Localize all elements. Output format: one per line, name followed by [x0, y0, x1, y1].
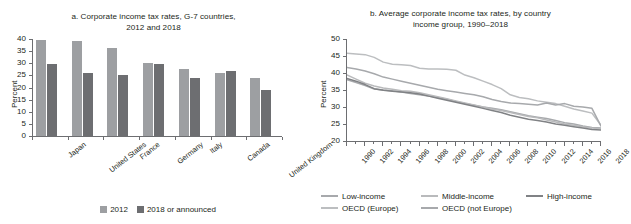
legend-row: Low-incomeMiddle-incomeHigh-income	[321, 190, 614, 202]
bar-group	[104, 39, 140, 136]
bar-2012	[143, 63, 153, 136]
panel-a-bar-chart: a. Corporate income tax rates, G-7 count…	[0, 0, 307, 224]
legend-line-icon	[526, 195, 543, 197]
panel-b-y-tick-label: 40	[324, 69, 340, 77]
panel-a-y-tick-label: 25	[10, 71, 26, 79]
legend-item: OECD (not Europe)	[421, 204, 526, 213]
panel-b-x-minor-tick	[500, 142, 501, 144]
legend-item: OECD (Europe)	[321, 204, 421, 213]
panel-b-x-label: 2018	[613, 147, 631, 165]
panel-a-x-label: Germany	[175, 140, 205, 166]
panel-a-x-label: Japan	[66, 140, 87, 159]
bar-2018-or-announced	[154, 64, 164, 136]
bar-2012	[250, 78, 260, 136]
panel-b-x-tick	[509, 142, 510, 146]
bar-group	[140, 39, 176, 136]
panel-a-x-label: Canada	[246, 140, 272, 163]
panel-b-x-tick	[419, 142, 420, 146]
panel-a-y-tick-label: 40	[10, 35, 26, 43]
panel-a-y-tick-label: 35	[10, 47, 26, 55]
panel-b-x-tick	[400, 142, 401, 146]
panel-b-title: b. Average corporate income tax rates, b…	[307, 9, 614, 30]
bar-group	[33, 39, 69, 136]
legend-item: Low-income	[321, 192, 421, 201]
bar-2018-or-announced	[83, 73, 93, 136]
panel-a-y-tick-label: 5	[10, 120, 26, 128]
panel-b-y-tick-label: 25	[324, 120, 340, 128]
panel-a-x-tick	[68, 137, 69, 140]
panel-b-x-minor-tick	[518, 142, 519, 144]
panel-a-y-tick-label: 10	[10, 108, 26, 116]
panel-b-lines	[347, 39, 601, 141]
panel-a-x-label: Italy	[208, 140, 224, 155]
bar-group	[176, 39, 212, 136]
panel-a-title-line1: a. Corporate income tax rates, G-7 count…	[71, 12, 235, 21]
panel-b-title-line1: b. Average corporate income tax rates, b…	[370, 9, 551, 18]
panel-b-x-minor-tick	[537, 142, 538, 144]
panel-b-x-label: 2010	[541, 147, 559, 165]
panel-b-x-tick	[582, 142, 583, 146]
legend-label: OECD (Europe)	[342, 204, 398, 213]
panel-b-x-minor-tick	[591, 142, 592, 144]
bar-group	[247, 39, 283, 136]
panel-b-x-label: 2000	[450, 147, 468, 165]
panel-b-x-label: 1996	[414, 147, 432, 165]
panel-b-plot-area	[347, 39, 600, 141]
panel-b-x-tick	[600, 142, 601, 146]
panel-b-x-label: 2006	[505, 147, 523, 165]
panel-b-x-label: 1998	[432, 147, 450, 165]
bar-2012	[36, 40, 46, 136]
panel-b-y-tick-label: 30	[324, 103, 340, 111]
bar-2012	[107, 48, 117, 136]
panel-a-y-tick-label: 0	[10, 132, 26, 140]
bar-2012	[179, 69, 189, 136]
panel-a-x-tick	[246, 137, 247, 140]
panel-b-legend: Low-incomeMiddle-incomeHigh-incomeOECD (…	[321, 190, 614, 214]
legend-item: Middle-income	[421, 192, 526, 201]
line-middle-income	[347, 75, 601, 129]
panel-b-x-label: 1994	[396, 147, 414, 165]
bar-group	[212, 39, 248, 136]
legend-label: 2018 or announced	[147, 205, 216, 214]
panel-b-x-minor-tick	[573, 142, 574, 144]
bar-2018-or-announced	[261, 90, 271, 136]
panel-b-title-line2: income group, 1990–2018	[413, 20, 508, 29]
panel-b-x-tick	[364, 142, 365, 146]
panel-b-line-chart: b. Average corporate income tax rates, b…	[307, 0, 614, 224]
panel-a-x-tick	[211, 137, 212, 140]
panel-b-x-tick	[455, 142, 456, 146]
bar-2018-or-announced	[226, 71, 236, 136]
panel-b-x-tick	[546, 142, 547, 146]
panel-b-x-tick	[473, 142, 474, 146]
panel-b-x-minor-tick	[482, 142, 483, 144]
legend-line-icon	[421, 195, 438, 197]
panel-b-x-label: 2008	[523, 147, 541, 165]
line-oecd-not-europe-	[347, 68, 601, 126]
bar-group	[69, 39, 105, 136]
panel-b-y-tick-label: 45	[324, 52, 340, 60]
panel-b-x-tick	[527, 142, 528, 146]
panel-b-x-tick	[491, 142, 492, 146]
panel-b-x-label: 1992	[378, 147, 396, 165]
bar-2018-or-announced	[190, 78, 200, 136]
panel-b-y-tick-label: 50	[324, 35, 340, 43]
panel-b-x-label: 2004	[486, 147, 504, 165]
panel-a-y-tick-label: 15	[10, 96, 26, 104]
panel-a-x-tick	[139, 137, 140, 140]
bar-2018-or-announced	[47, 64, 57, 136]
legend-label: 2012	[110, 205, 128, 214]
legend-swatch-icon	[137, 206, 144, 213]
panel-b-x-label: 1990	[359, 147, 377, 165]
legend-line-icon	[321, 207, 338, 209]
panel-a-legend: 20122018 or announced	[0, 205, 307, 214]
legend-row: OECD (Europe)OECD (not Europe)	[321, 202, 614, 214]
panel-b-x-minor-tick	[446, 142, 447, 144]
panel-b-x-minor-tick	[428, 142, 429, 144]
panel-a-x-tick	[32, 137, 33, 140]
panel-a-title: a. Corporate income tax rates, G-7 count…	[0, 12, 307, 33]
panel-b-y-tick-label: 20	[324, 137, 340, 145]
panel-b-x-tick	[346, 142, 347, 146]
panel-a-x-tick	[175, 137, 176, 140]
panel-b-x-label: 2002	[468, 147, 486, 165]
